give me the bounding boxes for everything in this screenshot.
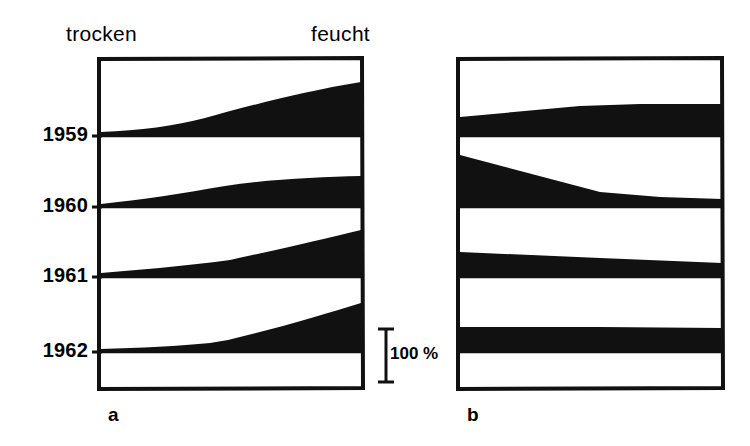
year-label-1961: 1961 [28,264,88,287]
panel-b [458,58,723,389]
panel-a [92,58,363,389]
panel-b-letter: b [467,404,479,426]
axis-label-trocken: trocken [66,22,137,46]
year-label-1960: 1960 [28,194,88,217]
panel-a-band-1962 [101,303,361,352]
panel-b-band-1959 [460,104,722,136]
panel-a-band-1960 [101,176,361,207]
year-label-1959: 1959 [28,123,88,146]
panel-a-band-1959 [101,82,361,136]
panel-b-band-1962 [460,327,722,352]
panel-a-letter: a [108,404,119,426]
panel-b-band-1961 [460,252,722,277]
panel-b-band-1960 [460,155,722,207]
panel-a-band-1961 [101,230,361,277]
figure-canvas [0,0,750,446]
axis-label-feucht: feucht [311,22,370,46]
scale-bar-label: 100 % [390,344,438,364]
year-label-1962: 1962 [28,339,88,362]
figure-root: trocken feucht 1959 1960 1961 1962 a b 1… [0,0,750,446]
